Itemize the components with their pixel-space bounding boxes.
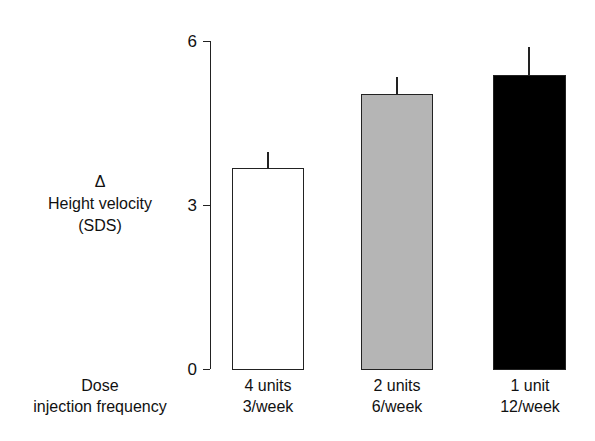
y-tick-label-6: 6 — [167, 33, 197, 50]
y-tick-0 — [203, 369, 210, 370]
x-label-dose-2: 2 units — [337, 376, 457, 396]
y-axis-line — [210, 41, 211, 369]
x-label-dose-3: 1 unit — [470, 376, 590, 396]
error-bar-1 — [267, 152, 269, 168]
bar-2-units — [361, 94, 433, 370]
y-tick-label-3: 3 — [167, 197, 197, 214]
error-bar-2 — [396, 77, 398, 94]
y-axis-label: Height velocity — [30, 194, 170, 214]
y-axis-unit: (SDS) — [30, 216, 170, 236]
x-label-freq-3: 12/week — [470, 397, 590, 417]
x-row-label-dose: Dose — [20, 376, 180, 396]
x-label-freq-2: 6/week — [337, 397, 457, 417]
y-tick-6 — [203, 41, 210, 42]
error-bar-3 — [528, 47, 530, 75]
y-tick-3 — [203, 205, 210, 206]
x-label-dose-1: 4 units — [208, 376, 328, 396]
y-axis-symbol: Δ — [30, 172, 170, 192]
x-label-freq-1: 3/week — [208, 397, 328, 417]
bar-1-unit — [493, 75, 566, 370]
x-row-label-frequency: injection frequency — [10, 397, 190, 417]
bar-4-units — [232, 168, 304, 370]
